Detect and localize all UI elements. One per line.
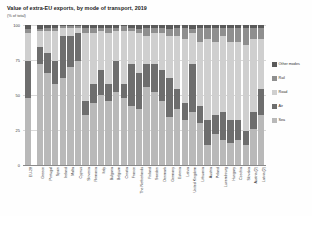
x-label-wrap: Finland bbox=[143, 167, 150, 215]
bar-segment-road bbox=[60, 28, 67, 36]
y-axis-tick-labels: 0255075100 bbox=[0, 25, 20, 165]
bar-spain[interactable] bbox=[52, 25, 59, 165]
bar-romania[interactable] bbox=[90, 25, 97, 165]
x-label-wrap: Greece bbox=[37, 167, 44, 215]
bar-croatia[interactable] bbox=[121, 25, 128, 165]
bar-segment-sea bbox=[235, 140, 242, 165]
bar-united-kingdom[interactable] bbox=[189, 25, 196, 165]
bar-slovakia[interactable] bbox=[243, 25, 250, 165]
legend-swatch-other-modes bbox=[272, 62, 277, 67]
bar-segment-sea bbox=[128, 106, 135, 165]
bar-segment-air bbox=[227, 120, 234, 142]
legend-item[interactable]: Rail bbox=[272, 76, 312, 81]
bar-segment-rail bbox=[143, 28, 150, 36]
bar-bulgaria[interactable] bbox=[105, 25, 112, 165]
bar-segment-sea bbox=[67, 67, 74, 165]
legend-item[interactable]: Road bbox=[272, 90, 312, 95]
bar-segment-air bbox=[143, 64, 150, 86]
bar-segment-sea bbox=[121, 98, 128, 165]
bar-segment-sea bbox=[227, 143, 234, 165]
bar-segment-road bbox=[113, 31, 120, 62]
bar-segment-air bbox=[90, 84, 97, 104]
bar-segment-rail bbox=[212, 28, 219, 42]
bar-segment-road bbox=[105, 33, 112, 83]
bar-hungary[interactable] bbox=[227, 25, 234, 165]
bar-sweden[interactable] bbox=[151, 25, 158, 165]
bar-segment-sea bbox=[143, 87, 150, 165]
x-label-wrap: Czechia bbox=[235, 167, 242, 215]
bar-poland[interactable] bbox=[212, 25, 219, 165]
x-label-wrap: Sweden bbox=[151, 167, 158, 215]
bar-segment-air bbox=[189, 64, 196, 112]
x-label-wrap: Hungary bbox=[227, 167, 234, 215]
y-axis-tick-label: 25 bbox=[16, 128, 20, 133]
bar-segment-road bbox=[98, 31, 105, 70]
bar-segment-road bbox=[243, 45, 250, 132]
y-axis-tick-label: 50 bbox=[16, 93, 20, 98]
bar-segment-rail bbox=[243, 28, 250, 45]
bar-segment-rail bbox=[174, 28, 181, 36]
bar-finland[interactable] bbox=[143, 25, 150, 165]
bar-segment-sea bbox=[182, 120, 189, 165]
x-label-wrap: EU-28 bbox=[25, 167, 32, 215]
bar-ireland[interactable] bbox=[60, 25, 67, 165]
legend-item[interactable]: Sea bbox=[272, 118, 312, 123]
x-axis-category-labels: EU-28GreecePortugalSpainIrelandMaltaCypr… bbox=[23, 167, 266, 215]
bar-france[interactable] bbox=[128, 25, 135, 165]
x-axis-line bbox=[23, 165, 266, 166]
bar-belgium[interactable] bbox=[113, 25, 120, 165]
bar-latvia[interactable] bbox=[182, 25, 189, 165]
bar-eu-28[interactable] bbox=[25, 25, 32, 165]
bar-segment-air bbox=[105, 84, 112, 101]
bar-segment-air bbox=[250, 112, 257, 129]
bar-germany[interactable] bbox=[166, 25, 173, 165]
bar-czechia[interactable] bbox=[235, 25, 242, 165]
bar-segment-sea bbox=[98, 95, 105, 165]
legend-item[interactable]: Other modes bbox=[272, 62, 312, 67]
x-label-wrap: Slovenia bbox=[82, 167, 89, 215]
bar-segment-air bbox=[159, 70, 166, 101]
bar-austria-2-[interactable] bbox=[250, 25, 257, 165]
bar-estonia[interactable] bbox=[174, 25, 181, 165]
bar-segment-sea bbox=[90, 103, 97, 165]
x-label-wrap: Austria bbox=[204, 167, 211, 215]
x-label-wrap: Portugal bbox=[44, 167, 51, 215]
bar-cyprus[interactable] bbox=[75, 25, 82, 165]
x-label-wrap: Cyprus bbox=[75, 167, 82, 215]
bar-malta[interactable] bbox=[67, 25, 74, 165]
bar-the-netherlands[interactable] bbox=[136, 25, 143, 165]
bar-segment-air bbox=[67, 36, 74, 67]
bar-segment-sea bbox=[250, 129, 257, 165]
bar-italy[interactable] bbox=[98, 25, 105, 165]
bar-segment-rail bbox=[258, 28, 265, 39]
bar-segment-road bbox=[121, 31, 128, 84]
bar-segment-road bbox=[189, 33, 196, 64]
legend-swatch-road bbox=[272, 90, 277, 95]
bar-segment-road bbox=[67, 28, 74, 36]
bar-segment-road bbox=[235, 42, 242, 120]
bar-segment-sea bbox=[44, 73, 51, 165]
x-label-wrap: Italy bbox=[98, 167, 105, 215]
legend-item[interactable]: Air bbox=[272, 104, 312, 109]
bar-segment-road bbox=[174, 36, 181, 89]
bar-denmark[interactable] bbox=[159, 25, 166, 165]
bar-lithuania[interactable] bbox=[197, 25, 204, 165]
bar-segment-sea bbox=[258, 115, 265, 165]
x-label-wrap: Luxembourg bbox=[220, 167, 227, 215]
bar-segment-road bbox=[90, 33, 97, 83]
bar-latvia-2-[interactable] bbox=[258, 25, 265, 165]
bar-austria[interactable] bbox=[204, 25, 211, 165]
bar-segment-sea bbox=[174, 109, 181, 165]
bar-greece[interactable] bbox=[37, 25, 44, 165]
bar-segment-road bbox=[204, 39, 211, 120]
bar-segment-air bbox=[44, 53, 51, 73]
bar-luxembourg[interactable] bbox=[220, 25, 227, 165]
bar-segment-road bbox=[37, 31, 44, 48]
x-label-wrap: Ireland bbox=[60, 167, 67, 215]
bar-portugal[interactable] bbox=[44, 25, 51, 165]
bar-segment-air bbox=[220, 112, 227, 140]
bar-segment-road bbox=[44, 31, 51, 53]
bar-segment-air bbox=[37, 47, 44, 64]
bar-segment-road bbox=[159, 33, 166, 69]
bar-slovenia[interactable] bbox=[82, 25, 89, 165]
